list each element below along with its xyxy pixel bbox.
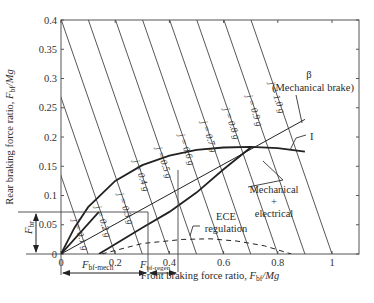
ece-label-1: ECE xyxy=(216,211,236,222)
beta-description: (Mechanical brake) xyxy=(272,82,354,94)
y-tick-label: 0.25 xyxy=(39,102,57,113)
iso-line-labels: j = 0.1 gj = 0.2 gj = 0.3 gj = 0.4 gj = … xyxy=(70,78,287,251)
iso-line-label: j = 0.2 g xyxy=(92,202,113,238)
y-tick-label: 0.05 xyxy=(39,219,57,230)
iso-line-label: j = 0.8 g xyxy=(221,104,242,140)
beta-label: β xyxy=(306,69,311,80)
ideal-curve-label: I xyxy=(310,131,314,142)
y-tick-label: 0.2 xyxy=(44,132,57,143)
fbr-label: Fbr xyxy=(23,221,36,235)
iso-line-label: j = 0.1 g xyxy=(70,215,91,251)
y-tick-labels: 00.050.10.150.20.250.30.350.4 xyxy=(39,15,58,260)
ece-leader xyxy=(190,226,200,236)
x-tick-label: 0.8 xyxy=(271,257,284,268)
y-tick-label: 0.4 xyxy=(44,15,58,26)
iso-line-label: j = 0.3 g xyxy=(115,189,136,225)
braking-force-chart: 00.20.40.60.81 00.050.10.150.20.250.30.3… xyxy=(0,0,374,303)
iso-line-label: j = 0.4 g xyxy=(131,156,152,192)
iso-line-label: j = 0.5 g xyxy=(153,143,174,179)
mech-elec-label-3: electrical xyxy=(255,208,294,219)
ece-curve xyxy=(102,239,292,254)
y-tick-label: 0.15 xyxy=(39,161,57,172)
iso-line-label: j = 0.6 g xyxy=(176,130,197,166)
ideal-leader xyxy=(290,135,306,150)
ece-label-2: regulation xyxy=(205,223,248,234)
y-axis-title: Rear braking force ratio, Fbf/Mg xyxy=(4,69,17,204)
mech-elec-label-2: + xyxy=(271,196,277,207)
iso-line-label: j = 0.7 g xyxy=(198,117,219,153)
y-tick-label: 0.35 xyxy=(39,44,57,55)
beta-leader xyxy=(296,95,302,123)
y-tick-label: 0.3 xyxy=(44,73,57,84)
ideal-curve xyxy=(61,147,305,254)
x-tick-label: 1 xyxy=(329,257,334,268)
x-axis-title: Front braking force ratio, Fbf/Mg xyxy=(141,270,279,283)
iso-line-label: j = 0.9 g xyxy=(244,91,265,127)
mech-elec-label-1: Mechanical xyxy=(250,184,299,195)
y-tick-label: 0.1 xyxy=(44,190,57,201)
x-tick-label: 0.6 xyxy=(217,257,230,268)
